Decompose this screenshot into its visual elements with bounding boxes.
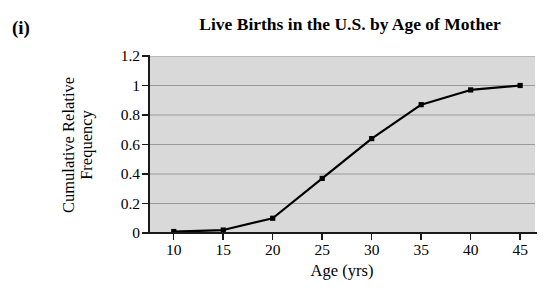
y-axis-title-line-2: Frequency (78, 52, 264, 238)
chart-figure: (i) Live Births in the U.S. by Age of Mo… (0, 0, 556, 291)
x-axis-tick-label: 25 (302, 241, 342, 259)
data-point-marker (369, 136, 374, 141)
x-axis-title: Age (yrs) (149, 261, 535, 281)
x-axis-tick-label: 10 (154, 241, 194, 259)
x-axis-tick (519, 234, 521, 240)
data-point-marker (270, 216, 275, 221)
data-point-marker (468, 87, 473, 92)
x-axis-tick-label: 30 (352, 241, 392, 259)
x-axis-tick-label: 45 (500, 241, 540, 259)
chart-title: Live Births in the U.S. by Age of Mother (150, 13, 550, 35)
x-axis-tick (470, 234, 472, 240)
x-axis-tick-label: 35 (401, 241, 441, 259)
x-axis-tick (272, 234, 274, 240)
x-axis-tick (321, 234, 323, 240)
y-axis-title: Cumulative Relative Frequency (60, 52, 106, 238)
x-axis-tick (371, 234, 373, 240)
x-axis-tick-label: 40 (451, 241, 491, 259)
figure-enumeration-label: (i) (12, 17, 30, 39)
x-axis-tick (420, 234, 422, 240)
data-point-marker (518, 83, 523, 88)
data-point-marker (419, 102, 424, 107)
x-axis-tick-label: 20 (253, 241, 293, 259)
data-point-marker (320, 176, 325, 181)
x-axis-tick-label: 15 (203, 241, 243, 259)
